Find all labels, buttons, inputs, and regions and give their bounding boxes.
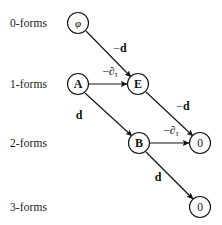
nodes-group: φAEB00 [68,13,211,218]
operator-subscript: τ [176,129,179,138]
row-label-1-forms: 1-forms [10,78,47,90]
operator-symbol: d [120,41,127,55]
edge-label-label-phi-E: −d [113,41,126,56]
node-A[interactable]: A [68,74,89,95]
row-label-2-forms: 2-forms [10,137,47,149]
node-zero2[interactable]: 0 [190,133,211,154]
edge-B-zero3 [146,152,193,199]
edges-group [85,31,193,199]
edge-A-B [85,93,132,136]
edge-label-label-A-E: −∂τ [103,65,118,79]
node-phi[interactable]: φ [68,13,89,34]
node-label-A: A [74,77,83,91]
node-label-E: E [134,77,142,91]
operator-subscript: τ [115,70,118,79]
node-B[interactable]: B [129,133,150,154]
edge-label-label-A-B: d [76,108,83,123]
node-zero3[interactable]: 0 [190,197,211,218]
node-E[interactable]: E [128,74,149,95]
edge-label-label-B-zero3: d [155,170,162,185]
node-label-zero2: 0 [197,137,203,149]
edge-label-label-B-zero2: −∂τ [164,124,179,138]
row-label-0-forms: 0-forms [10,17,47,29]
row-label-3-forms: 3-forms [10,201,47,213]
operator-symbol: d [183,99,190,113]
minus-sign: − [113,41,120,55]
edge-label-label-E-zero2: −d [176,99,189,114]
minus-sign: − [176,99,183,113]
operator-symbol: d [155,170,162,184]
node-label-phi: φ [75,17,81,29]
node-label-B: B [135,136,143,150]
node-label-zero3: 0 [197,201,203,213]
operator-symbol: d [76,108,83,122]
diagram-canvas: φAEB00 0-forms1-forms2-forms3-forms −d−∂… [0,0,222,225]
